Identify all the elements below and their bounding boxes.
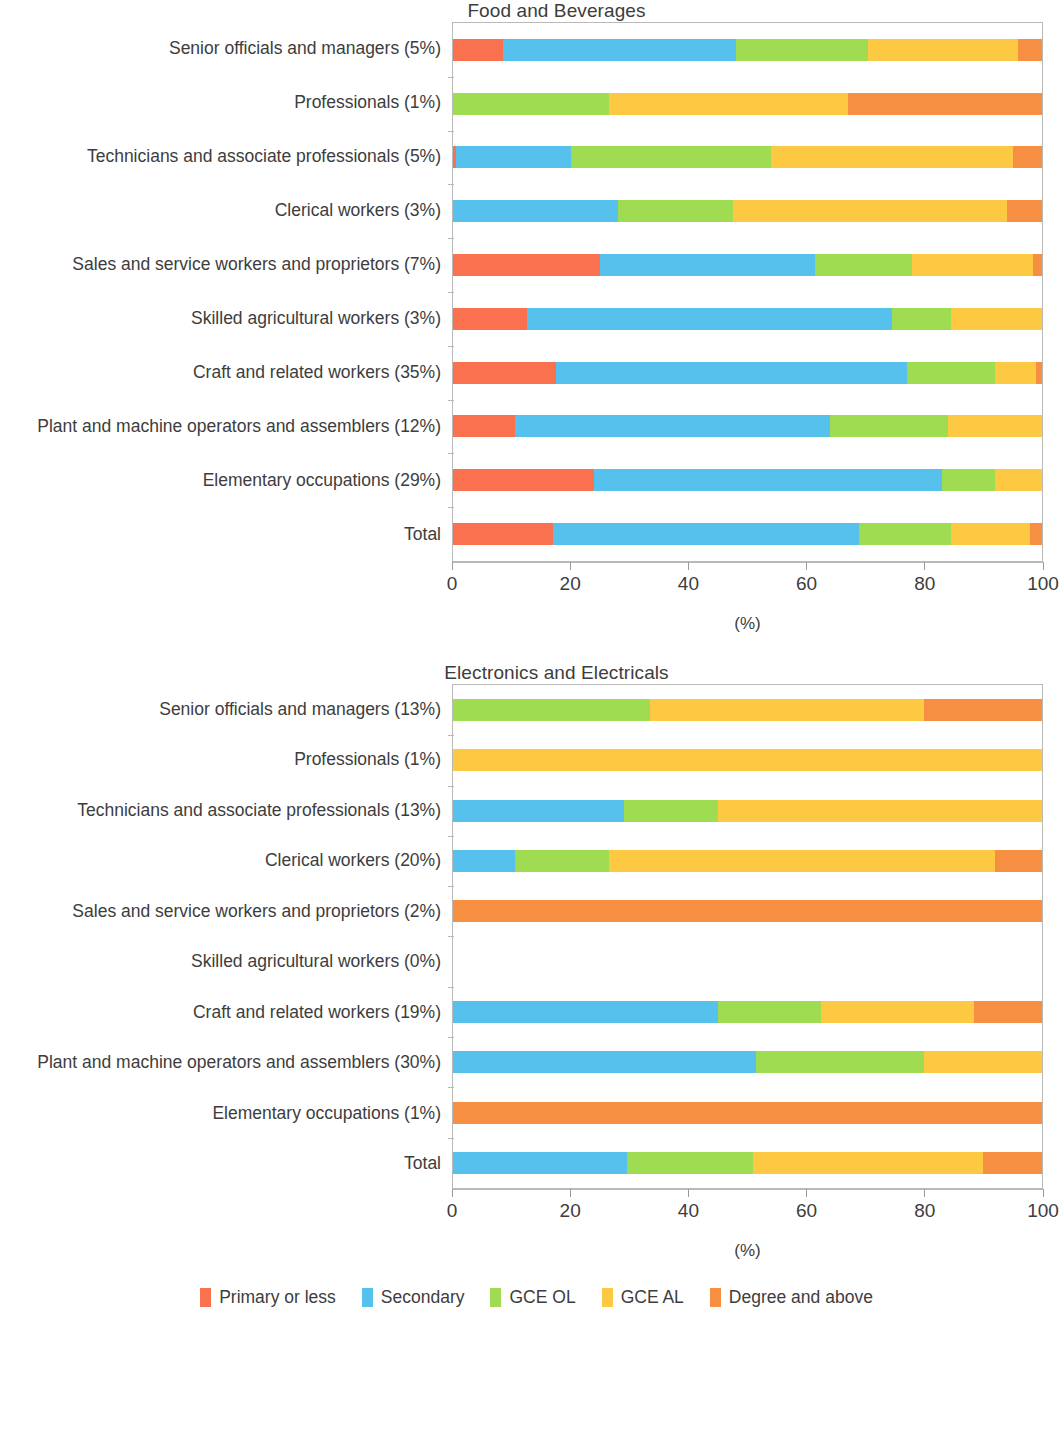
bar-row — [453, 184, 1042, 238]
x-axis: 020406080100 — [452, 562, 1043, 608]
x-axis-tick-label: 40 — [678, 1200, 699, 1222]
bar-segment — [453, 850, 515, 872]
bar-row — [453, 23, 1042, 77]
stacked-bar — [453, 900, 1042, 922]
bar-segment — [627, 1152, 754, 1174]
x-axis-tick-label: 0 — [447, 573, 458, 595]
bar-segment — [830, 415, 948, 437]
bar-row — [453, 292, 1042, 346]
y-axis-tick — [448, 507, 454, 508]
bar-segment — [815, 254, 912, 276]
bar-segment — [453, 254, 600, 276]
x-axis-tick-label: 100 — [1027, 573, 1059, 595]
bar-segment — [571, 146, 771, 168]
bar-segment — [736, 39, 869, 61]
y-axis-tick — [448, 238, 454, 239]
legend-item[interactable]: GCE OL — [490, 1287, 575, 1308]
category-label: Clerical workers (3%) — [0, 184, 452, 238]
legend-item[interactable]: GCE AL — [602, 1287, 684, 1308]
bar-row — [453, 987, 1042, 1037]
chart-panel-food-and-beverages: Food and Beverages Senior officials and … — [0, 0, 1043, 634]
bar-segment — [650, 699, 924, 721]
x-axis-tick-label: 80 — [914, 573, 935, 595]
x-axis-tick-label: 0 — [447, 1200, 458, 1222]
x-axis-tick-label: 20 — [560, 573, 581, 595]
legend-item[interactable]: Degree and above — [710, 1287, 873, 1308]
bar-segment — [594, 469, 942, 491]
bar-segment — [453, 93, 609, 115]
category-label: Sales and service workers and proprietor… — [0, 886, 452, 937]
y-axis-tick — [448, 1037, 454, 1038]
bar-segment — [527, 308, 892, 330]
stacked-bar — [453, 469, 1042, 491]
bar-segment — [848, 93, 1042, 115]
bar-segment — [942, 469, 995, 491]
stacked-bar — [453, 1152, 1042, 1174]
stacked-bar — [453, 800, 1042, 822]
category-label: Senior officials and managers (13%) — [0, 684, 452, 735]
x-axis-unit-label: (%) — [0, 614, 1043, 634]
chart-panel-electronics-and-electricals: Electronics and Electricals Senior offic… — [0, 662, 1043, 1261]
bar-segment — [951, 308, 1042, 330]
x-axis-tick — [1043, 562, 1044, 570]
x-axis-tick — [452, 562, 453, 570]
plot-area — [452, 22, 1043, 562]
y-axis-tick — [448, 184, 454, 185]
legend-swatch-icon — [362, 1288, 373, 1307]
bar-segment — [453, 900, 1042, 922]
x-axis-row: 020406080100 — [0, 562, 1043, 608]
category-label: Plant and machine operators and assemble… — [0, 400, 452, 454]
category-label: Elementary occupations (29%) — [0, 454, 452, 508]
bar-segment — [453, 39, 503, 61]
bar-row — [453, 886, 1042, 936]
x-axis-tick — [806, 562, 807, 570]
x-axis-tick-label: 100 — [1027, 1200, 1059, 1222]
bar-segment — [868, 39, 1018, 61]
bar-row — [453, 77, 1042, 131]
stacked-bar — [453, 200, 1042, 222]
x-axis-tick — [570, 562, 571, 570]
stacked-bar — [453, 850, 1042, 872]
bar-segment — [995, 850, 1042, 872]
stacked-bar — [453, 93, 1042, 115]
bar-segment — [503, 39, 736, 61]
plot-area — [452, 684, 1043, 1189]
bar-segment — [453, 415, 515, 437]
category-label: Craft and related workers (35%) — [0, 346, 452, 400]
y-axis-tick — [448, 400, 454, 401]
bar-segment — [1033, 254, 1042, 276]
legend-swatch-icon — [490, 1288, 501, 1307]
category-label: Elementary occupations (1%) — [0, 1088, 452, 1139]
x-axis-tick-label: 80 — [914, 1200, 935, 1222]
legend-swatch-icon — [200, 1288, 211, 1307]
stacked-bar — [453, 1001, 1042, 1023]
bar-segment — [453, 1102, 1042, 1124]
stacked-bar — [453, 749, 1042, 771]
stacked-bar — [453, 951, 1042, 973]
bar-segment — [718, 1001, 821, 1023]
stacked-bar — [453, 415, 1042, 437]
bar-segment — [948, 415, 1042, 437]
x-axis-tick — [1043, 1189, 1044, 1197]
category-label: Skilled agricultural workers (0%) — [0, 937, 452, 988]
bar-segment — [556, 362, 906, 384]
bar-row — [453, 346, 1042, 400]
bar-row — [453, 936, 1042, 986]
bar-segment — [1013, 146, 1042, 168]
bar-segment — [821, 1001, 974, 1023]
y-axis-tick — [448, 1087, 454, 1088]
x-axis-tick-label: 20 — [560, 1200, 581, 1222]
legend-label: Degree and above — [729, 1287, 873, 1308]
legend-item[interactable]: Secondary — [362, 1287, 465, 1308]
bar-row — [453, 507, 1042, 561]
y-axis-tick — [448, 987, 454, 988]
x-axis-tick — [452, 1189, 453, 1197]
category-label: Plant and machine operators and assemble… — [0, 1038, 452, 1089]
category-label: Clerical workers (20%) — [0, 836, 452, 887]
category-label: Total — [0, 1139, 452, 1190]
bar-segment — [453, 308, 527, 330]
stacked-bar — [453, 308, 1042, 330]
category-labels-column: Senior officials and managers (5%)Profes… — [0, 22, 452, 562]
stacked-bar — [453, 39, 1042, 61]
legend-item[interactable]: Primary or less — [200, 1287, 336, 1308]
